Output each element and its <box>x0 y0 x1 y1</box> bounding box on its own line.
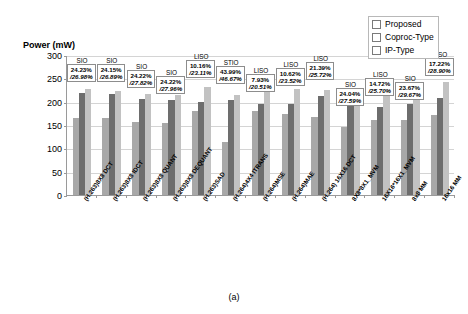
x-tick-mark <box>275 195 276 198</box>
x-tick-mark <box>245 195 246 198</box>
annotation-value-primary: 24.15% <box>100 66 123 73</box>
annotation-tag: LISO <box>306 55 336 62</box>
annotation-value-primary: 10.16% <box>189 62 211 69</box>
annotation-callout: 24.22%/27.82% <box>127 70 156 88</box>
annotation-tag: SIO <box>156 69 186 76</box>
legend-swatch-coproc-type <box>372 33 381 42</box>
annotation-value-secondary: /28.90% <box>428 67 451 74</box>
annotation-tag: SIO <box>67 57 97 64</box>
legend-swatch-proposed <box>372 20 381 29</box>
bar <box>204 87 210 195</box>
x-tick-mark <box>215 195 216 198</box>
annotation-tag: LISO <box>276 61 306 68</box>
annotation-value-secondary: /26.89% <box>100 73 123 80</box>
chart-legend: Proposed Coproc-Type IP-Type <box>368 16 439 59</box>
bar <box>413 89 419 195</box>
annotation-callout: 24.22%/27.96% <box>156 76 185 94</box>
annotation-callout: 10.62%/23.52% <box>276 68 305 86</box>
legend-label-coproc-type: Coproc-Type <box>385 33 434 42</box>
bar <box>234 95 240 195</box>
annotation-value-secondary: /29.67% <box>398 91 421 98</box>
annotation-value-primary: 7.93% <box>249 76 272 83</box>
annotation-value-primary: 43.99% <box>219 68 242 75</box>
annotation-tag: LISO <box>365 71 395 78</box>
x-tick-mark <box>126 195 127 198</box>
bar <box>145 94 151 195</box>
annotation-tag: STIO <box>216 59 246 66</box>
y-tick-label: 200 <box>47 99 62 108</box>
annotation-callout: 24.15%/26.89% <box>97 64 126 82</box>
annotation-callout: 24.23%/26.98% <box>67 64 96 82</box>
annotation-value-primary: 24.04% <box>339 90 362 97</box>
legend-label-ip-type: IP-Type <box>385 46 414 55</box>
x-tick-mark <box>156 195 157 198</box>
y-tick-label: 150 <box>47 122 62 131</box>
annotation-tag: LISO <box>246 67 276 74</box>
y-tick-label: 0 <box>57 192 62 201</box>
annotation-tag: SIO <box>395 75 425 82</box>
bar <box>354 102 360 195</box>
legend-item: Coproc-Type <box>372 32 434 43</box>
annotation-callout: 7.93%/20.51% <box>246 74 275 92</box>
annotation-value-primary: 24.22% <box>159 78 182 85</box>
annotation-callout: 23.67%/29.67% <box>395 82 424 100</box>
annotation-value-secondary: /25.72% <box>309 71 332 78</box>
y-tick-label: 50 <box>52 169 62 178</box>
annotation-value-secondary: /26.98% <box>70 73 93 80</box>
annotation-value-primary: 17.22% <box>428 60 451 67</box>
x-tick-mark <box>185 195 186 198</box>
annotation-callout: 24.04%/27.59% <box>336 88 365 106</box>
bar <box>383 94 389 195</box>
y-tick-label: 100 <box>47 145 62 154</box>
y-tick-label: 300 <box>47 52 62 61</box>
legend-item: IP-Type <box>372 45 434 56</box>
x-tick-mark <box>424 195 425 198</box>
y-tick-mark <box>64 196 67 197</box>
bar <box>294 89 300 195</box>
y-axis-title: Power (mW) <box>23 40 75 50</box>
bar <box>115 91 121 195</box>
annotation-value-secondary: /20.51% <box>249 83 272 90</box>
legend-swatch-ip-type <box>372 46 381 55</box>
annotation-callout: 10.16%/23.11% <box>186 60 214 78</box>
legend-label-proposed: Proposed <box>385 20 421 29</box>
annotation-value-primary: 24.23% <box>70 66 93 73</box>
annotation-tag: SIO <box>97 57 127 64</box>
annotation-value-primary: 21.39% <box>309 64 332 71</box>
annotation-value-primary: 23.67% <box>398 84 421 91</box>
bar <box>85 89 91 195</box>
bar <box>443 82 449 195</box>
legend-item: Proposed <box>372 19 434 30</box>
annotation-value-secondary: /23.52% <box>279 77 302 84</box>
annotation-value-secondary: /27.59% <box>339 97 362 104</box>
annotation-value-secondary: /27.82% <box>130 79 153 86</box>
bar-group <box>425 56 455 195</box>
x-tick-mark <box>364 195 365 198</box>
x-tick-mark <box>454 195 455 198</box>
figure-caption: (a) <box>0 292 468 302</box>
annotation-value-secondary: /25.70% <box>368 87 391 94</box>
annotation-value-primary: 14.72% <box>368 80 391 87</box>
figure-panel: Power (mW) Proposed Coproc-Type IP-Type … <box>0 0 468 314</box>
annotation-callout: 14.72%/25.70% <box>365 78 394 96</box>
annotation-callout: 17.22%/28.90% <box>425 58 454 76</box>
annotation-value-secondary: /27.96% <box>159 85 182 92</box>
annotation-callout: 21.39%/25.72% <box>306 62 335 80</box>
bar <box>264 90 270 195</box>
bar <box>324 90 330 195</box>
x-tick-mark <box>96 195 97 198</box>
annotation-tag: SIO <box>127 63 157 70</box>
annotation-value-primary: 24.22% <box>130 72 153 79</box>
annotation-callout: 43.99%/46.67% <box>216 66 245 84</box>
annotation-tag: SIO <box>336 81 366 88</box>
x-tick-mark <box>335 195 336 198</box>
x-axis-labels: (H.263)8X8 DCT(H.263)8X8 IDCT(H.263)8X8 … <box>66 198 454 284</box>
annotation-value-secondary: /23.11% <box>189 69 211 76</box>
x-tick-mark <box>305 195 306 198</box>
x-tick-mark <box>394 195 395 198</box>
bar <box>175 95 181 195</box>
annotation-value-primary: 10.62% <box>279 70 302 77</box>
annotation-value-secondary: /46.67% <box>219 75 242 82</box>
annotation-tag: LISO <box>186 53 216 60</box>
y-tick-label: 250 <box>47 75 62 84</box>
